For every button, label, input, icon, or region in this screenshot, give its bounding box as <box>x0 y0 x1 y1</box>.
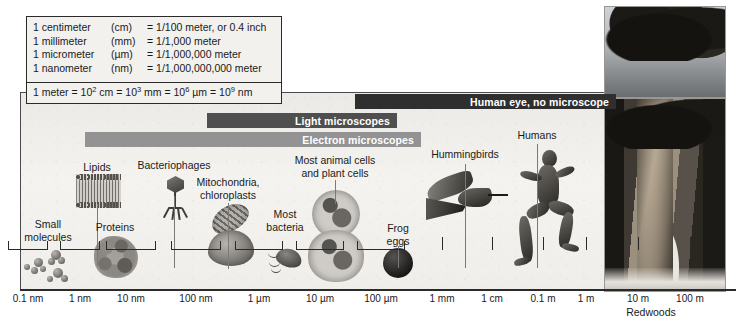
range-bar-label: Human eye, no microscope <box>470 96 609 108</box>
key-unit-abbr: (µm) <box>111 48 147 62</box>
formula-part: mm = 10 <box>141 86 185 98</box>
key-unit-value: = 1/1,000,000 meter <box>147 48 275 62</box>
axis-tick-label: 10 nm <box>117 293 145 304</box>
specimen-label-hummingbirds: Hummingbirds <box>431 148 499 161</box>
range-bar-label: Electron microscopes <box>302 134 414 146</box>
axis-tick-label: 100 m <box>676 293 704 304</box>
specimen-label-line: Frog <box>387 222 410 235</box>
specimen-label-line: bacteria <box>266 221 303 234</box>
key-row: 1 micrometer (µm) = 1/1,000,000 meter <box>27 48 281 62</box>
lipids-artwork <box>76 174 121 208</box>
axis-tick-label: 1 cm <box>481 293 503 304</box>
axis-tick <box>543 237 544 250</box>
key-row: 1 nanometer (nm) = 1/1,000,000,000 meter <box>27 62 281 79</box>
scale-axis-line <box>20 289 736 291</box>
specimen-label-most-bacteria: Mostbacteria <box>266 208 303 233</box>
axis-tick <box>690 237 691 250</box>
key-unit-value: = 1/1,000 meter <box>147 35 275 49</box>
lipid-head-row-top <box>76 174 121 180</box>
key-conversion-formula: 1 meter = 102 cm = 103 mm = 106 µm = 109… <box>27 83 281 103</box>
key-unit-abbr: (nm) <box>111 62 147 76</box>
specimen-label-line: Small <box>24 218 71 231</box>
human-thigh-rear <box>524 199 551 221</box>
axis-tick-label: 0.1 m <box>530 293 555 304</box>
specimen-label-most-animal-and-plant-cells: Most animal cellsand plant cells <box>295 154 376 179</box>
bird-body <box>458 188 492 207</box>
axis-tick-label: 1 nm <box>69 293 91 304</box>
phage-base-plate <box>168 207 182 209</box>
specimen-label-line: Most animal cells <box>295 154 376 167</box>
axis-bracket-tick <box>106 241 157 250</box>
key-unit-abbr: (cm) <box>111 21 147 35</box>
redwood-canopy-photo <box>604 6 726 98</box>
axis-tick <box>586 237 587 250</box>
key-unit-abbr: (mm) <box>111 35 147 49</box>
specimen-label-line: Humans <box>517 129 556 142</box>
axis-bracket-tick <box>171 241 220 250</box>
axis-tick-label: 10 µm <box>306 293 334 304</box>
specimen-label-humans: Humans <box>517 129 556 142</box>
phage-head <box>167 176 184 193</box>
axis-bracket-tick <box>60 241 100 250</box>
specimen-label-line: and plant cells <box>295 167 376 180</box>
unit-key-box: 1 centimeter (cm) = 1/100 meter, or 0.4 … <box>26 16 282 104</box>
axis-bracket-tick <box>235 241 283 250</box>
specimen-label-bacteriophages: Bacteriophages <box>138 159 211 172</box>
specimen-label-mitochondria-chloroplasts: Mitochondria,chloroplasts <box>196 176 259 201</box>
key-row: 1 millimeter (mm) = 1/1,000 meter <box>27 35 281 49</box>
range-bar-electron-microscopes[interactable]: Electron microscopes <box>85 132 421 147</box>
formula-part: µm = 10 <box>189 86 230 98</box>
formula-part: cm = 10 <box>96 86 137 98</box>
formula-part: nm <box>235 86 253 98</box>
range-bar-light-microscopes[interactable]: Light microscopes <box>207 113 397 128</box>
scale-axis-ticks <box>0 250 736 290</box>
axis-tick <box>442 237 443 250</box>
key-row: 1 centimeter (cm) = 1/100 meter, or 0.4 … <box>27 17 281 35</box>
photo-caption-redwoods: Redwoods <box>626 306 676 318</box>
axis-tick-label: 1 m <box>578 293 595 304</box>
axis-tick-label: 100 nm <box>179 293 212 304</box>
specimen-label-proteins: Proteins <box>96 221 135 234</box>
axis-tick-label: 0.1 nm <box>13 293 44 304</box>
human-arm-front <box>554 165 576 180</box>
specimen-label-lipids: Lipids <box>83 161 110 174</box>
leader-line-animal-plant-cells <box>335 180 336 204</box>
axis-tick <box>492 237 493 250</box>
lipid-head-row-bottom <box>76 202 121 208</box>
axis-bracket-tick <box>296 241 344 250</box>
figure-root: Human eye, no microscope Light microscop… <box>0 0 736 330</box>
axis-tick-label: 1 µm <box>248 293 270 304</box>
specimen-label-line: Proteins <box>96 221 135 234</box>
key-unit-name: 1 micrometer <box>33 48 111 62</box>
specimen-label-line: Bacteriophages <box>138 159 211 172</box>
formula-part: 1 meter = 10 <box>33 86 92 98</box>
key-unit-value: = 1/100 meter, or 0.4 inch <box>147 21 275 35</box>
key-unit-value: = 1/1,000,000,000 meter <box>147 62 275 76</box>
key-unit-name: 1 centimeter <box>33 21 111 35</box>
specimen-label-line: Lipids <box>83 161 110 174</box>
canopy-foliage <box>605 7 725 61</box>
axis-bracket-tick <box>357 241 405 250</box>
axis-tick-label: 100 µm <box>364 293 398 304</box>
bird-beak <box>488 194 508 196</box>
specimen-label-line: Most <box>266 208 303 221</box>
axis-bracket-tick <box>8 241 49 250</box>
canopy-foliage-lower <box>605 99 725 149</box>
range-bar-human-eye[interactable]: Human eye, no microscope <box>355 94 616 109</box>
specimen-label-line: Hummingbirds <box>431 148 499 161</box>
specimen-label-line: Mitochondria, <box>196 176 259 189</box>
range-bar-label: Light microscopes <box>295 115 390 127</box>
axis-tick-label: 10 m <box>627 293 649 304</box>
specimen-label-line: chloroplasts <box>196 189 259 202</box>
specimen-label-small-molecules: Smallmolecules <box>24 218 71 243</box>
axis-tick-label: 1 mm <box>430 293 455 304</box>
bacteriophage-artwork <box>160 176 190 220</box>
key-unit-name: 1 nanometer <box>33 62 111 76</box>
axis-tick <box>638 237 639 250</box>
key-unit-name: 1 millimeter <box>33 35 111 49</box>
hummingbird-artwork <box>424 172 508 234</box>
